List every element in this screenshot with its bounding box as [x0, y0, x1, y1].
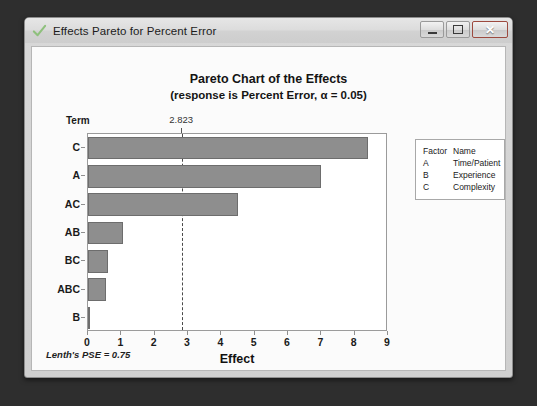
x-tick-0 — [87, 331, 88, 335]
x-tick-1 — [120, 331, 121, 335]
chart-canvas: Pareto Chart of the Effects (response is… — [31, 46, 506, 371]
x-tick-label-6: 6 — [284, 336, 290, 348]
y-tick-b — [81, 317, 85, 318]
chart-title: Pareto Chart of the Effects — [32, 72, 505, 86]
legend-name: Time/Patient — [453, 157, 500, 169]
y-tick-label-abc: ABC — [57, 283, 80, 295]
y-tick-label-b: B — [72, 311, 80, 323]
x-axis-ticks: 0123456789 — [87, 331, 387, 353]
window-titlebar[interactable]: Effects Pareto for Percent Error ✕ — [25, 18, 512, 43]
x-tick-label-1: 1 — [117, 336, 123, 348]
x-tick-label-3: 3 — [184, 336, 190, 348]
x-tick-label-9: 9 — [384, 336, 390, 348]
y-tick-ab — [81, 232, 85, 233]
y-tick-label-c: C — [72, 141, 80, 153]
x-tick-label-8: 8 — [351, 336, 357, 348]
bar-a — [88, 165, 321, 188]
legend-factor: A — [423, 157, 453, 169]
close-button[interactable]: ✕ — [472, 21, 508, 38]
bar-abc — [88, 278, 106, 301]
x-tick-label-5: 5 — [251, 336, 257, 348]
reference-line-label: 2.823 — [169, 114, 193, 125]
minimize-button[interactable] — [420, 21, 444, 38]
bar-ac — [88, 193, 238, 216]
y-axis-title: Term — [66, 115, 90, 126]
chart-window: Effects Pareto for Percent Error ✕ Paret… — [24, 17, 513, 378]
close-icon: ✕ — [485, 24, 495, 36]
x-axis-title: Effect — [87, 352, 387, 366]
legend-row: CComplexity — [423, 181, 497, 193]
bar-b — [88, 307, 90, 330]
x-tick-9 — [387, 331, 388, 335]
x-tick-2 — [154, 331, 155, 335]
legend-factor: B — [423, 169, 453, 181]
plot-area — [87, 133, 387, 331]
bar-ab — [88, 222, 123, 245]
x-tick-label-2: 2 — [151, 336, 157, 348]
maximize-icon — [453, 25, 463, 34]
reference-line — [182, 134, 183, 330]
x-tick-3 — [187, 331, 188, 335]
minimize-icon — [428, 32, 437, 34]
y-axis-tick-labels: CAACABBCABCB — [32, 133, 80, 331]
legend-name: Experience — [453, 169, 497, 181]
window-controls: ✕ — [420, 21, 508, 38]
footnote: Lenth's PSE = 0.75 — [46, 349, 130, 360]
y-tick-a — [81, 175, 85, 176]
legend-row: ATime/Patient — [423, 157, 497, 169]
window-title: Effects Pareto for Percent Error — [53, 25, 216, 37]
x-tick-5 — [254, 331, 255, 335]
x-tick-4 — [220, 331, 221, 335]
x-tick-8 — [354, 331, 355, 335]
legend-header-name: Name — [453, 145, 497, 157]
maximize-button[interactable] — [446, 21, 470, 38]
reference-line-tick — [181, 128, 182, 133]
y-tick-label-ac: AC — [65, 198, 80, 210]
legend-row: BExperience — [423, 169, 497, 181]
y-tick-ac — [81, 204, 85, 205]
legend-factor: C — [423, 181, 453, 193]
y-tick-abc — [81, 289, 85, 290]
chart-subtitle: (response is Percent Error, α = 0.05) — [32, 89, 505, 101]
y-tick-label-ab: AB — [65, 226, 80, 238]
checkmark-icon — [32, 23, 47, 38]
y-tick-label-a: A — [72, 169, 80, 181]
x-tick-label-0: 0 — [84, 336, 90, 348]
x-tick-label-7: 7 — [317, 336, 323, 348]
legend-box: Factor Name ATime/PatientBExperienceCCom… — [415, 139, 505, 200]
bar-bc — [88, 250, 108, 273]
x-tick-6 — [287, 331, 288, 335]
y-tick-label-bc: BC — [65, 254, 80, 266]
x-tick-label-4: 4 — [217, 336, 223, 348]
y-tick-bc — [81, 260, 85, 261]
x-tick-7 — [320, 331, 321, 335]
bar-c — [88, 137, 368, 160]
y-tick-c — [81, 147, 85, 148]
legend-header-factor: Factor — [423, 145, 453, 157]
legend-name: Complexity — [453, 181, 497, 193]
legend-header-row: Factor Name — [423, 145, 497, 157]
